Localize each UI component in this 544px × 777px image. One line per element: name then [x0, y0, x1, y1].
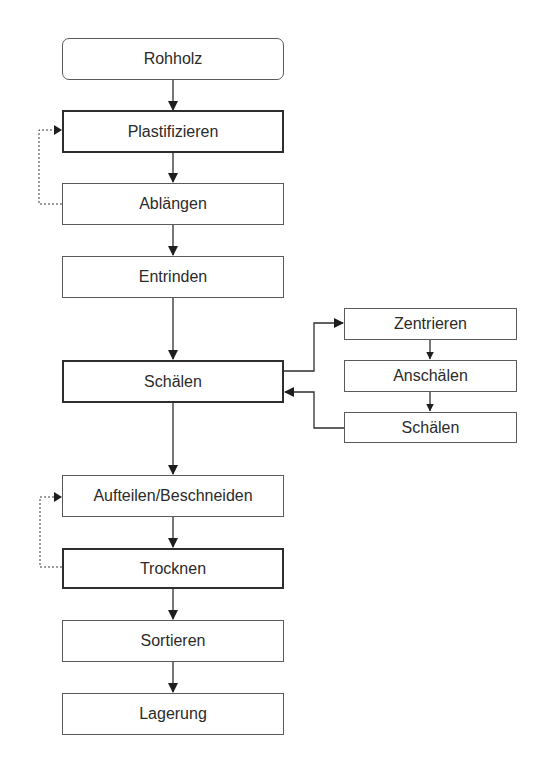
node-label: Plastifizieren	[128, 123, 219, 141]
edge-ablaengen-plastifizieren-dashed	[39, 130, 62, 204]
node-sortieren: Sortieren	[62, 620, 284, 662]
node-rohholz: Rohholz	[62, 38, 284, 80]
edge-schaelen-sub-schaelen	[285, 392, 344, 428]
node-label: Schälen	[402, 419, 460, 437]
dashed-arrowhead-icon	[54, 125, 62, 135]
node-schaelen: Schälen	[62, 360, 284, 403]
node-zentrieren: Zentrieren	[344, 308, 517, 340]
node-plastifizieren: Plastifizieren	[62, 110, 284, 153]
node-trocknen: Trocknen	[62, 548, 284, 589]
dashed-arrowhead-icon	[54, 492, 62, 502]
node-label: Lagerung	[139, 705, 207, 723]
node-entrinden: Entrinden	[62, 256, 284, 298]
node-label: Schälen	[144, 373, 202, 391]
node-schaelen-sub: Schälen	[344, 412, 517, 443]
node-label: Entrinden	[139, 268, 208, 286]
edge-trocknen-aufteilen-dashed	[40, 497, 62, 567]
node-label: Trocknen	[140, 560, 206, 578]
node-ablaengen: Ablängen	[62, 183, 284, 225]
node-aufteilen-beschneiden: Aufteilen/Beschneiden	[62, 475, 284, 517]
node-lagerung: Lagerung	[62, 693, 284, 735]
node-label: Rohholz	[144, 50, 203, 68]
node-label: Ablängen	[139, 195, 207, 213]
node-label: Zentrieren	[394, 315, 467, 333]
flowchart-canvas: Rohholz Plastifizieren Ablängen Entrinde…	[0, 0, 544, 777]
node-label: Sortieren	[141, 632, 206, 650]
node-anschaelen: Anschälen	[344, 360, 517, 392]
node-label: Anschälen	[393, 367, 468, 385]
edge-schaelen-zentrieren	[284, 323, 343, 371]
node-label: Aufteilen/Beschneiden	[93, 487, 252, 505]
